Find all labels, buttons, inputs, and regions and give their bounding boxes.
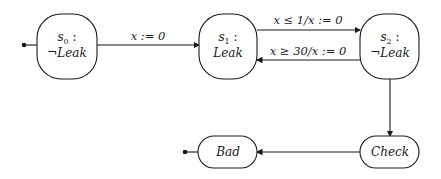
svg-text:x ≤ 1/x := 0: x ≤ 1/x := 0 bbox=[273, 13, 342, 27]
state-check[interactable]: Check bbox=[360, 136, 419, 168]
state-s1-prop: Leak bbox=[212, 46, 243, 60]
state-bad[interactable]: Bad bbox=[198, 136, 257, 168]
state-s0-prop: ¬Leak bbox=[47, 46, 87, 60]
svg-text:Check: Check bbox=[371, 145, 409, 159]
state-diagram: s0 : ¬Leak x := 0 s1 : Leak x ≤ 1/x := 0… bbox=[0, 0, 441, 179]
transition-s0-s1: x := 0 bbox=[97, 29, 199, 45]
transition-s2-s1: x ≥ 30/x := 0 bbox=[257, 44, 360, 60]
svg-text:x ≥ 30/x := 0: x ≥ 30/x := 0 bbox=[270, 44, 347, 58]
initial-marker-bad bbox=[183, 150, 198, 155]
svg-text:Bad: Bad bbox=[215, 145, 240, 159]
transition-s1-s2: x ≤ 1/x := 0 bbox=[257, 13, 360, 30]
initial-marker-s0 bbox=[22, 43, 37, 48]
state-s2[interactable]: s2 : ¬Leak bbox=[360, 14, 419, 79]
state-s2-prop: ¬Leak bbox=[370, 46, 410, 60]
state-s1[interactable]: s1 : Leak bbox=[199, 14, 257, 79]
state-s0[interactable]: s0 : ¬Leak bbox=[37, 14, 97, 79]
svg-text:x := 0: x := 0 bbox=[131, 29, 166, 43]
